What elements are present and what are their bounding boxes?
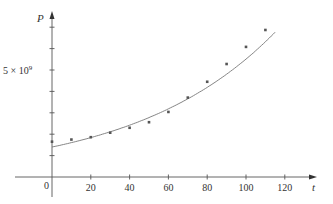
labels: P t 0 5 × 109 (3, 12, 316, 193)
data-point (206, 80, 209, 83)
data-point (51, 140, 54, 143)
x-tick-label: 100 (239, 182, 254, 193)
axes (15, 11, 317, 197)
data-point (167, 111, 170, 114)
data-point (109, 131, 112, 134)
y-tick-label-5e9: 5 × 109 (3, 64, 33, 76)
y-axis-label: P (36, 12, 44, 24)
x-tick-label: 60 (163, 182, 173, 193)
x-axis-label: t (312, 181, 316, 193)
x-tick-label: 120 (277, 182, 292, 193)
data-point (187, 96, 190, 99)
data-point (70, 138, 73, 141)
data-point (264, 29, 267, 32)
data-point (245, 46, 248, 49)
ticks (50, 27, 285, 179)
x-tick-labels: 20406080100120 (86, 182, 292, 193)
exponential-curve (52, 32, 275, 147)
data-point (128, 126, 131, 129)
data-point (148, 121, 151, 124)
x-tick-label: 80 (202, 182, 212, 193)
origin-label: 0 (44, 180, 49, 191)
x-axis-arrow-icon (309, 175, 317, 180)
y-axis-arrow-icon (50, 11, 55, 19)
data-point (90, 136, 93, 139)
chart-canvas: P t 0 5 × 109 20406080100120 (0, 0, 333, 204)
x-tick-label: 20 (86, 182, 96, 193)
data-point (225, 63, 228, 66)
x-tick-label: 40 (125, 182, 135, 193)
data-points (51, 29, 267, 143)
